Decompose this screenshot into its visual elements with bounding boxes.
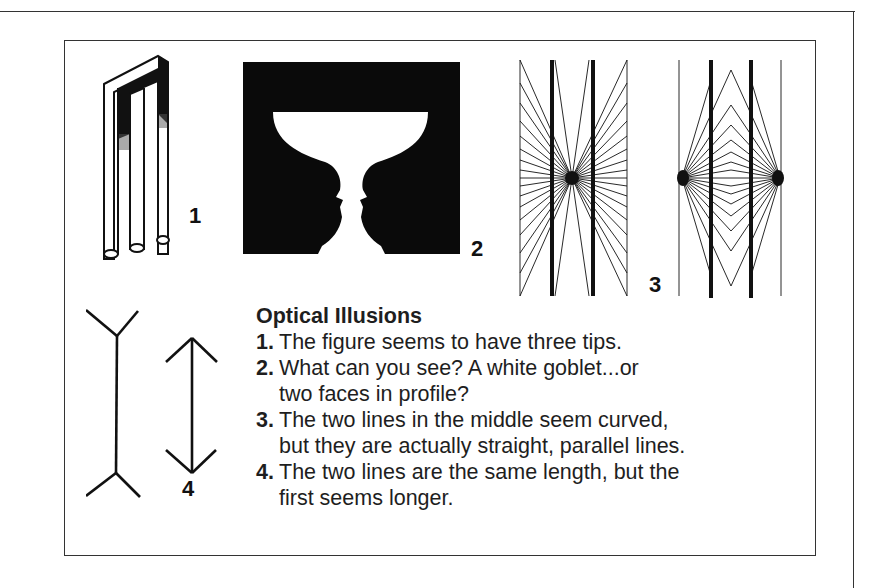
page-right-rule [853, 11, 854, 588]
item-number: 4. [256, 459, 279, 485]
caption-item-2: 2.What can you see? A white goblet...ort… [256, 355, 796, 407]
item-number: 2. [256, 355, 279, 381]
hering-illusion-figure [515, 58, 633, 298]
figure-4-label: 4 [182, 476, 194, 502]
item-number: 1. [256, 329, 279, 355]
figure-2-label: 2 [471, 236, 483, 262]
caption-item-4: 4.The two lines are the same length, but… [256, 459, 796, 511]
figure-1-label: 1 [189, 203, 201, 229]
caption-item-3: 3.The two lines in the middle seem curve… [256, 407, 796, 459]
page-top-rule [0, 11, 855, 12]
item-text: two faces in profile? [279, 382, 469, 406]
item-number: 3. [256, 407, 279, 433]
muller-lyer-figure [86, 298, 246, 498]
rubin-vase-figure [243, 62, 460, 254]
item-text: first seems longer. [279, 486, 453, 510]
item-text: The figure seems to have three tips. [279, 330, 622, 354]
wundt-illusion-figure [676, 60, 788, 298]
item-text: The two lines are the same length, but t… [279, 460, 679, 484]
figure-3-label: 3 [649, 272, 661, 298]
caption-item-1: 1.The figure seems to have three tips. [256, 329, 796, 355]
item-text: but they are actually straight, parallel… [279, 434, 685, 458]
item-text: What can you see? A white goblet...or [279, 356, 639, 380]
caption-heading: Optical Illusions [256, 303, 796, 329]
item-text: The two lines in the middle seem curved, [279, 408, 669, 432]
caption-block: Optical Illusions 1.The figure seems to … [256, 303, 796, 511]
impossible-trident-figure [100, 54, 180, 264]
